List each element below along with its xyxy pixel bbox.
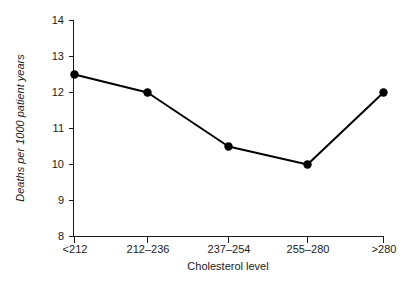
data-line [75, 75, 384, 165]
chart-figure: 14 13 12 11 10 9 8 <212 212–236 237–254 … [0, 0, 416, 281]
x-tick-label-2: 237–254 [208, 243, 251, 255]
x-axis-title: Cholesterol level [187, 260, 268, 272]
data-point [70, 70, 78, 78]
y-tick-label-12: 12 [52, 86, 64, 98]
data-point [303, 160, 311, 168]
data-point [143, 88, 151, 96]
x-tick-label-4: >280 [372, 243, 397, 255]
x-axis-tick-labels: <212 212–236 237–254 255–280 >280 [63, 243, 397, 255]
x-tick-label-1: 212–236 [127, 243, 170, 255]
data-point [224, 142, 232, 150]
line-chart: 14 13 12 11 10 9 8 <212 212–236 237–254 … [0, 0, 416, 281]
y-tick-label-10: 10 [52, 158, 64, 170]
y-tick-label-11: 11 [53, 122, 64, 134]
data-point [379, 88, 387, 96]
y-axis-title: Deaths per 1000 patient years [14, 54, 26, 202]
y-axis-tick-labels: 14 13 12 11 10 9 8 [52, 14, 64, 242]
y-tick-label-8: 8 [58, 230, 64, 242]
y-axis-ticks [69, 21, 74, 237]
y-tick-label-13: 13 [52, 50, 64, 62]
x-tick-label-0: <212 [63, 243, 88, 255]
x-axis-ticks [75, 237, 384, 243]
y-tick-label-14: 14 [52, 14, 64, 26]
y-tick-label-9: 9 [58, 194, 64, 206]
x-tick-label-3: 255–280 [287, 243, 330, 255]
